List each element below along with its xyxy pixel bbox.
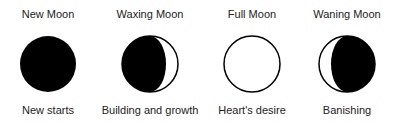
waning-moon-icon bbox=[317, 34, 377, 94]
phase-full-moon: Full Moon Heart's desire bbox=[202, 0, 302, 124]
phase-title: Waning Moon bbox=[297, 8, 397, 20]
phase-title: Waxing Moon bbox=[100, 8, 200, 20]
full-moon-icon bbox=[222, 34, 282, 94]
phase-waning-moon: Waning Moon Banishing bbox=[297, 0, 397, 124]
phase-caption: Banishing bbox=[297, 104, 397, 116]
phase-caption: Building and growth bbox=[100, 104, 200, 116]
phase-title: New Moon bbox=[0, 8, 98, 20]
phase-caption: New starts bbox=[0, 104, 98, 116]
phase-title: Full Moon bbox=[202, 8, 302, 20]
phase-waxing-moon: Waxing Moon Building and growth bbox=[100, 0, 200, 124]
phase-new-moon: New Moon New starts bbox=[0, 0, 98, 124]
new-moon-icon bbox=[18, 34, 78, 94]
waxing-moon-icon bbox=[120, 34, 180, 94]
phase-caption: Heart's desire bbox=[202, 104, 302, 116]
